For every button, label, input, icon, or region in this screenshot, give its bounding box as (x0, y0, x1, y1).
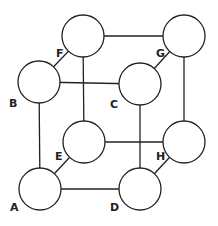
node-label-c: C (110, 98, 118, 111)
node-label-f: F (56, 47, 64, 60)
nodes-layer (18, 15, 205, 210)
node-label-b: B (9, 97, 17, 110)
node-label-d: D (110, 201, 119, 214)
cube-graph-diagram: ABCDEFGH (0, 0, 218, 226)
node-label-a: A (10, 201, 19, 214)
node-a (19, 168, 61, 210)
node-label-g: G (156, 47, 165, 60)
node-e (63, 121, 105, 163)
node-g (163, 15, 205, 57)
node-b (18, 61, 60, 103)
node-label-e: E (55, 150, 63, 163)
node-c (119, 63, 161, 105)
node-label-h: H (156, 150, 165, 163)
node-h (163, 121, 205, 163)
node-d (119, 168, 161, 210)
node-f (62, 15, 104, 57)
